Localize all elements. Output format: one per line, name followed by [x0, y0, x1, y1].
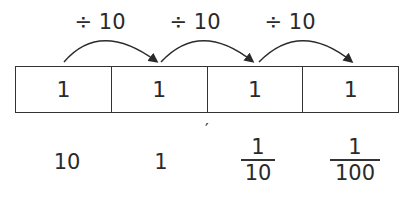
value-one-tenth: 1 10: [210, 135, 306, 185]
arrow-2: [161, 41, 252, 62]
cell-1: 1: [16, 67, 112, 112]
value-one-hundredth: 1 100: [307, 135, 403, 185]
numerator: 1: [249, 135, 266, 159]
denominator: 100: [333, 161, 377, 185]
cell-4: 1: [303, 67, 398, 112]
cell-3: 1: [208, 67, 304, 112]
cell-2: 1: [112, 67, 208, 112]
value-ten: 10: [19, 150, 115, 174]
arrow-1: [64, 41, 156, 62]
arrows: [0, 0, 406, 70]
arrow-3: [259, 41, 351, 62]
place-value-table: 1 1 1 1: [15, 66, 399, 113]
tick-mark: ′: [205, 120, 209, 139]
denominator: 10: [243, 161, 274, 185]
value-one: 1: [113, 150, 209, 174]
numerator: 1: [346, 135, 363, 159]
